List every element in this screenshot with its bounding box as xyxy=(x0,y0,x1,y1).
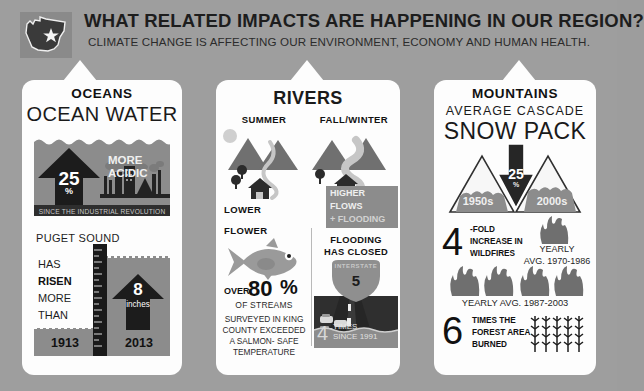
rivers-season-right: FALL/WINTER xyxy=(312,114,396,125)
burned-value: 6 xyxy=(442,312,463,350)
rivers-column-divider xyxy=(311,228,312,346)
interstate-flood-figure: INTERSTATE 5 4 TIMES SINCE 1991 xyxy=(314,260,398,348)
rivers-right-caption-2: FLOWS xyxy=(330,201,363,211)
flood-count-line-2: SINCE 1991 xyxy=(333,332,377,341)
flood-count-value: 4 xyxy=(317,322,328,345)
mountains-heading-small: AVERAGE CASCADE xyxy=(434,104,596,118)
yearly-label-1: YEARLY xyxy=(526,244,588,254)
streams-detail-4: TEMPERATURE xyxy=(218,347,310,357)
flood-line-2: HAS CLOSED xyxy=(314,247,398,257)
oceans-panel-pointer xyxy=(63,60,97,81)
mountains-kicker: MOUNTAINS xyxy=(434,86,596,101)
washington-state-icon xyxy=(24,15,68,55)
burned-trees-icon xyxy=(530,312,592,354)
flame-icon-group xyxy=(448,266,584,296)
wildfire-line-1: -FOLD xyxy=(470,225,495,234)
snowpack-figure: 25 % 1950s 2000s xyxy=(444,148,586,214)
flood-line-1: FLOODING xyxy=(314,235,398,245)
rise-value: 8 xyxy=(112,280,164,300)
flame-icon-single xyxy=(538,216,572,244)
rivers-left-caption-2: FLOWER xyxy=(224,225,268,236)
year-start: 1913 xyxy=(34,336,96,350)
decade-left: 1950s xyxy=(450,195,506,207)
mountains-panel-pointer xyxy=(502,60,536,81)
ocean-acid-unit: % xyxy=(38,186,100,196)
decade-right: 2000s xyxy=(524,195,580,207)
page-subtitle: CLIMATE CHANGE IS AFFECTING OUR ENVIRONM… xyxy=(88,35,590,48)
flood-count-line-1: TIMES xyxy=(333,322,357,331)
rivers-panel-pointer xyxy=(290,60,324,81)
streams-value: 80 xyxy=(248,276,272,302)
panel-oceans: OCEANS OCEAN WATER xyxy=(22,80,182,375)
page-title: WHAT RELATED IMPACTS ARE HAPPENING IN OU… xyxy=(84,10,644,32)
yearly-label-bottom: YEARLY AVG. 1987-2003 xyxy=(440,298,590,308)
wildfire-line-2: INCREASE IN xyxy=(470,237,523,246)
mountains-heading-big: SNOW PACK xyxy=(434,118,596,145)
wildfire-value: 4 xyxy=(442,223,463,261)
ocean-acid-label-2: ACIDIC xyxy=(108,167,148,179)
burned-line-2: FOREST AREA xyxy=(472,328,530,337)
streams-detail-1: SURVEYED IN KING xyxy=(218,314,310,324)
puget-sound-title: PUGET SOUND xyxy=(36,232,120,244)
rivers-season-left: SUMMER xyxy=(222,114,306,125)
sea-level-rise-figure: 8 inches HAS RISEN MORE THAN 1913 2013 xyxy=(34,256,170,356)
rivers-right-caption-1: HIGHER xyxy=(330,188,365,198)
streams-detail-2: COUNTY EXCEEDED xyxy=(218,325,310,335)
risen-line-1: HAS xyxy=(38,258,61,270)
summer-river-scene-icon xyxy=(222,126,310,204)
wave-line-icon xyxy=(34,137,170,145)
panel-mountains: MOUNTAINS AVERAGE CASCADE SNOW PACK 25 %… xyxy=(434,80,596,375)
burned-line-3: BURNED xyxy=(472,340,507,349)
streams-unit: % xyxy=(280,276,298,299)
burned-line-1: TIMES THE xyxy=(472,316,516,325)
rivers-heading: RIVERS xyxy=(216,88,400,109)
yearly-label-2: AVG. 1970-1986 xyxy=(516,256,598,266)
snowpack-drop-value: 25 xyxy=(498,166,534,182)
risen-line-3: MORE xyxy=(38,292,71,304)
rise-unit: inches xyxy=(112,300,164,309)
year-end: 2013 xyxy=(108,336,170,350)
ocean-acid-footer: SINCE THE INDUSTRIAL REVOLUTION xyxy=(34,208,170,215)
panel-rivers: RIVERS SUMMER FALL/WINTER LOWER xyxy=(216,80,400,375)
ocean-acid-label-1: MORE xyxy=(108,154,143,166)
interstate-shield-label: INTERSTATE xyxy=(332,263,380,269)
streams-detail-3: A SALMON- SAFE xyxy=(218,336,310,346)
risen-line-2: RISEN xyxy=(38,275,72,287)
snowpack-drop-unit: % xyxy=(498,181,534,188)
streams-post: OF STREAMS xyxy=(220,300,308,310)
ocean-acidity-figure: 25 % MORE ACIDIC SINCE THE INDUSTRIAL RE… xyxy=(34,138,170,216)
rivers-left-caption: LOWER xyxy=(224,204,261,215)
wildfire-line-3: WILDFIRES xyxy=(470,249,515,258)
oceans-kicker: OCEANS xyxy=(22,86,182,101)
header: WHAT RELATED IMPACTS ARE HAPPENING IN OU… xyxy=(12,8,606,64)
interstate-shield-number: 5 xyxy=(332,272,380,289)
rivers-right-caption-3: + FLOODING xyxy=(330,214,385,224)
washington-state-badge xyxy=(20,12,72,58)
streams-pre: OVER xyxy=(224,286,250,296)
risen-line-4: THAN xyxy=(38,309,68,321)
oceans-heading: OCEAN WATER xyxy=(22,103,182,126)
